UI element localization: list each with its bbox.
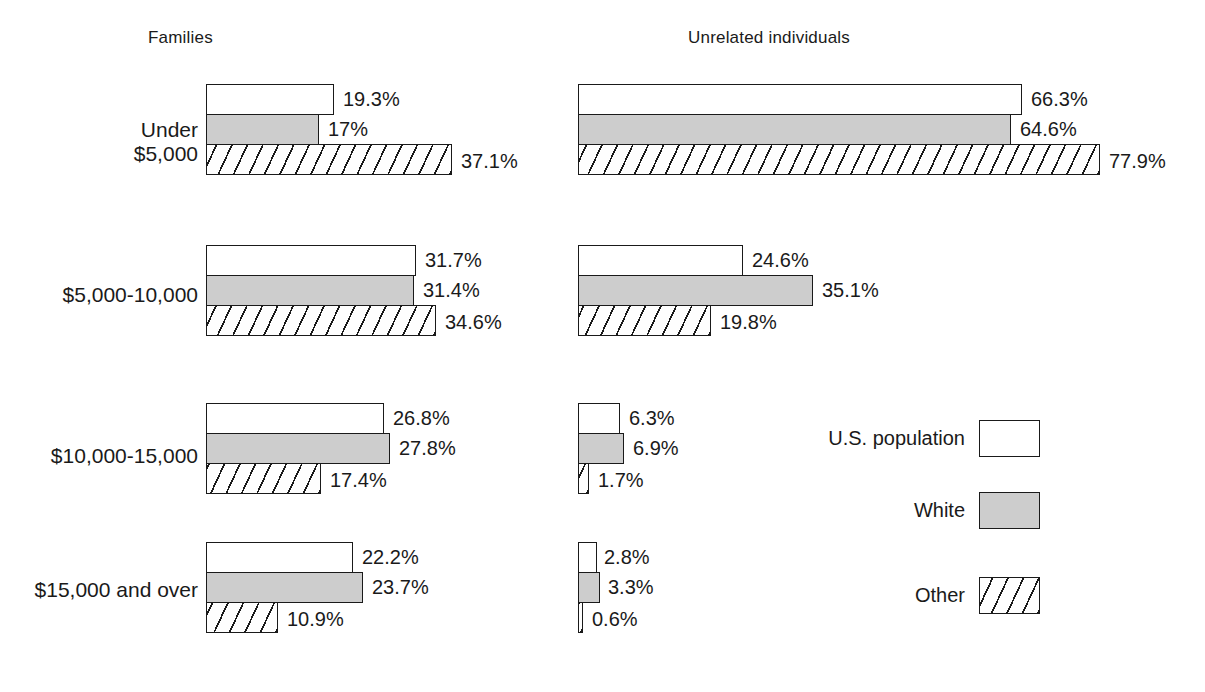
bar-unrelated-white-15000-and-over: [578, 572, 600, 603]
bar-unrelated-white-under-5000: [578, 114, 1011, 145]
value-label-unrelated-us-population-under-5000: 66.3%: [1031, 84, 1088, 115]
legend-swatch-other-icon: [979, 577, 1040, 614]
legend-item-white: White: [800, 492, 1040, 529]
bar-unrelated-white-5000-10000: [578, 275, 813, 306]
bar-families-us-population-10000-15000: [206, 403, 384, 434]
bar-unrelated-other-15000-and-over: [578, 602, 583, 633]
value-label-unrelated-white-15000-and-over: 3.3%: [608, 572, 654, 603]
legend-item-us-population: U.S. population: [800, 420, 1040, 457]
value-label-unrelated-us-population-15000-and-over: 2.8%: [604, 542, 650, 573]
value-label-families-white-10000-15000: 27.8%: [399, 433, 456, 464]
value-label-families-other-under-5000: 37.1%: [461, 146, 518, 177]
bar-families-us-population-5000-10000: [206, 245, 416, 276]
bar-families-other-15000-and-over: [206, 602, 278, 633]
panel-title-families: Families: [148, 28, 213, 48]
value-label-unrelated-other-under-5000: 77.9%: [1109, 146, 1166, 177]
legend-label-us-population: U.S. population: [828, 427, 965, 450]
legend-label-other: Other: [915, 584, 965, 607]
value-label-families-white-under-5000: 17%: [328, 114, 368, 145]
value-label-unrelated-white-10000-15000: 6.9%: [633, 433, 679, 464]
bar-unrelated-other-under-5000: [578, 144, 1100, 175]
value-label-families-white-15000-and-over: 23.7%: [372, 572, 429, 603]
bar-families-other-5000-10000: [206, 305, 436, 336]
panel-title-unrelated-individuals: Unrelated individuals: [688, 28, 850, 48]
legend-swatch-white-icon: [979, 492, 1040, 529]
bar-unrelated-other-5000-10000: [578, 305, 711, 336]
value-label-families-us-population-5000-10000: 31.7%: [425, 245, 482, 276]
value-label-families-us-population-15000-and-over: 22.2%: [362, 542, 419, 573]
bar-families-white-10000-15000: [206, 433, 390, 464]
value-label-families-white-5000-10000: 31.4%: [423, 275, 480, 306]
bar-families-us-population-under-5000: [206, 84, 334, 115]
bar-unrelated-other-10000-15000: [578, 463, 589, 494]
category-label-10000-15000: $10,000-15,000: [51, 444, 198, 468]
legend-label-white: White: [914, 499, 965, 522]
value-label-unrelated-other-5000-10000: 19.8%: [720, 307, 777, 338]
chart-root: Families Unrelated individuals Under $5,…: [0, 0, 1205, 692]
bar-unrelated-us-population-15000-and-over: [578, 542, 597, 573]
value-label-families-us-population-under-5000: 19.3%: [343, 84, 400, 115]
legend-item-other: Other: [800, 577, 1040, 614]
bar-families-white-under-5000: [206, 114, 319, 145]
bar-unrelated-us-population-5000-10000: [578, 245, 743, 276]
value-label-families-other-15000-and-over: 10.9%: [287, 604, 344, 635]
value-label-unrelated-other-10000-15000: 1.7%: [598, 465, 644, 496]
value-label-families-other-10000-15000: 17.4%: [330, 465, 387, 496]
category-label-15000-and-over: $15,000 and over: [35, 578, 198, 602]
value-label-families-us-population-10000-15000: 26.8%: [393, 403, 450, 434]
value-label-families-other-5000-10000: 34.6%: [445, 307, 502, 338]
category-label-under-5000: Under $5,000: [134, 118, 198, 166]
legend-swatch-us-population-icon: [979, 420, 1040, 457]
bar-unrelated-us-population-10000-15000: [578, 403, 620, 434]
value-label-unrelated-us-population-10000-15000: 6.3%: [629, 403, 675, 434]
bar-families-other-10000-15000: [206, 463, 321, 494]
value-label-unrelated-other-15000-and-over: 0.6%: [592, 604, 638, 635]
category-label-5000-10000: $5,000-10,000: [63, 283, 198, 307]
bar-unrelated-white-10000-15000: [578, 433, 624, 464]
bar-families-white-5000-10000: [206, 275, 414, 306]
bar-unrelated-us-population-under-5000: [578, 84, 1022, 115]
value-label-unrelated-white-5000-10000: 35.1%: [822, 275, 879, 306]
bar-families-other-under-5000: [206, 144, 452, 175]
bar-families-white-15000-and-over: [206, 572, 363, 603]
value-label-unrelated-white-under-5000: 64.6%: [1020, 114, 1077, 145]
bar-families-us-population-15000-and-over: [206, 542, 353, 573]
value-label-unrelated-us-population-5000-10000: 24.6%: [752, 245, 809, 276]
